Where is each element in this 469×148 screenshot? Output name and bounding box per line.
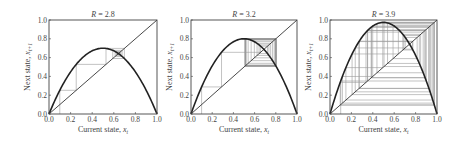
y-axis-label: Next state, xt+1 xyxy=(304,43,314,91)
x-tick-label: 0.2 xyxy=(347,115,357,124)
x-tick-label: 1.0 xyxy=(152,115,162,124)
x-tick-label: 0.2 xyxy=(66,115,76,124)
cobweb-trajectory xyxy=(340,22,434,114)
y-tick-label: 1.0 xyxy=(319,16,329,25)
y-tick-label: 0.8 xyxy=(319,34,329,43)
identity-line xyxy=(191,20,297,114)
chart-title: R = 3.9 xyxy=(371,10,395,19)
chart-panel-2: 0.00.20.40.60.81.00.00.20.40.60.81.0R = … xyxy=(165,10,302,135)
x-tick-label: 0.2 xyxy=(208,115,218,124)
x-tick-label: 0.6 xyxy=(390,115,400,124)
y-axis-label: Next state, xt+1 xyxy=(23,43,33,91)
x-tick-label: 1.0 xyxy=(292,115,302,124)
x-axis-label: Current state, xt xyxy=(358,125,409,135)
y-axis-label: Next state, xt+1 xyxy=(165,43,175,91)
x-tick-label: 0.4 xyxy=(368,115,378,124)
chart-title: R = 3.2 xyxy=(231,10,255,19)
y-tick-label: 0.8 xyxy=(38,34,48,43)
x-tick-label: 0.6 xyxy=(250,115,260,124)
y-tick-label: 0.6 xyxy=(180,53,190,62)
y-tick-label: 0.0 xyxy=(180,110,190,119)
y-tick-label: 1.0 xyxy=(180,16,190,25)
y-tick-label: 0.4 xyxy=(38,72,48,81)
chart-title: R = 2.8 xyxy=(90,10,114,19)
identity-line xyxy=(49,20,157,114)
x-tick-label: 0.4 xyxy=(229,115,239,124)
chart-panel-1: 0.00.20.40.60.81.00.00.20.40.60.81.0R = … xyxy=(23,10,162,135)
chart-panel-3: 0.00.20.40.60.81.00.00.20.40.60.81.0R = … xyxy=(304,10,442,135)
x-tick-label: 0.8 xyxy=(411,115,421,124)
logistic-curve xyxy=(49,48,157,114)
x-tick-label: 0.8 xyxy=(131,115,141,124)
x-axis-label: Current state, xt xyxy=(78,125,129,135)
cobweb-trajectory xyxy=(60,48,125,114)
x-tick-label: 1.0 xyxy=(432,115,442,124)
logistic-curve xyxy=(191,39,297,114)
y-tick-label: 0.4 xyxy=(180,72,190,81)
chart-figure: 0.00.20.40.60.81.00.00.20.40.60.81.0R = … xyxy=(0,0,469,148)
figure: 0.00.20.40.60.81.00.00.20.40.60.81.0R = … xyxy=(0,0,469,148)
y-tick-label: 0.2 xyxy=(319,91,329,100)
x-axis-label: Current state, xt xyxy=(219,125,270,135)
x-tick-label: 0.8 xyxy=(271,115,281,124)
y-tick-label: 0.0 xyxy=(38,110,48,119)
y-tick-label: 0.8 xyxy=(180,34,190,43)
x-tick-label: 0.4 xyxy=(88,115,98,124)
y-tick-label: 0.6 xyxy=(38,53,48,62)
y-tick-label: 0.0 xyxy=(319,110,329,119)
x-tick-label: 0.6 xyxy=(109,115,119,124)
y-tick-label: 0.2 xyxy=(180,91,190,100)
y-tick-label: 0.6 xyxy=(319,53,329,62)
y-tick-label: 1.0 xyxy=(38,16,48,25)
y-tick-label: 0.4 xyxy=(319,72,329,81)
y-tick-label: 0.2 xyxy=(38,91,48,100)
